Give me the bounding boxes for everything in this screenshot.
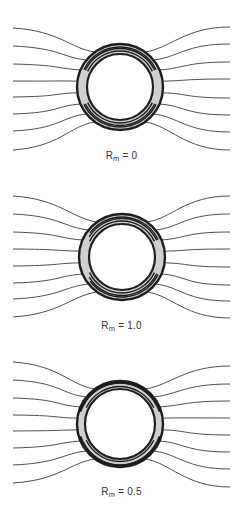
field-line-right	[163, 430, 230, 435]
field-line-left	[13, 415, 77, 418]
field-line-right	[159, 441, 230, 452]
field-line-right	[145, 122, 230, 150]
panel-rm-0: Rm = 0	[0, 0, 243, 170]
field-line-left	[13, 196, 97, 222]
field-line-left	[13, 292, 97, 317]
field-line-right	[147, 292, 230, 318]
ring-inner-edge	[85, 389, 155, 459]
field-line-left	[13, 104, 81, 114]
field-line-right	[163, 79, 230, 81]
field-line-left	[13, 46, 87, 60]
label-symbol: R	[106, 150, 113, 161]
panel-rm-1-0: Rm = 1.0	[0, 170, 243, 340]
field-line-right	[163, 93, 230, 98]
field-line-right	[153, 44, 230, 60]
field-line-left	[13, 441, 81, 448]
label-symbol: R	[101, 320, 108, 331]
field-diagram-rm-1-0	[0, 170, 243, 340]
field-line-left	[13, 263, 79, 266]
ring-inner-edge	[87, 54, 153, 120]
field-line-right	[165, 263, 230, 267]
field-line-right	[145, 27, 230, 52]
field-line-left	[13, 274, 83, 283]
field-line-left	[13, 122, 95, 150]
label-value: = 1.0	[115, 320, 142, 331]
label-value: = 0.5	[115, 486, 142, 497]
field-line-left	[13, 93, 77, 97]
field-diagram-rm-0	[0, 0, 243, 170]
field-line-left	[13, 451, 87, 465]
field-line-right	[159, 104, 230, 115]
label-symbol: R	[101, 486, 108, 497]
field-line-left	[13, 459, 95, 483]
field-line-right	[159, 62, 230, 70]
field-line-left	[13, 232, 83, 240]
field-line-right	[145, 366, 230, 389]
panel-label-rm-0: Rm = 0	[0, 150, 243, 163]
field-line-left	[13, 64, 81, 70]
panel-label-rm-0-5: Rm = 0.5	[0, 486, 243, 499]
field-line-right	[147, 196, 230, 222]
ring-inner-edge	[89, 224, 155, 290]
field-diagram-rm-0-5	[0, 338, 243, 508]
field-line-left	[13, 398, 81, 407]
field-line-right	[161, 274, 230, 285]
field-line-right	[165, 249, 230, 251]
field-line-right	[159, 401, 230, 407]
field-line-right	[153, 384, 230, 397]
panel-rm-0-5: Rm = 0.5	[0, 338, 243, 508]
panel-label-rm-1-0: Rm = 1.0	[0, 320, 243, 333]
field-line-left	[13, 28, 95, 52]
field-line-left	[13, 249, 79, 251]
field-line-left	[13, 284, 89, 299]
field-line-left	[13, 430, 77, 431]
field-line-left	[13, 214, 89, 230]
field-line-left	[13, 362, 95, 389]
field-line-right	[145, 459, 230, 487]
field-line-right	[161, 232, 230, 240]
field-line-right	[155, 214, 230, 230]
label-value: = 0	[120, 150, 138, 161]
